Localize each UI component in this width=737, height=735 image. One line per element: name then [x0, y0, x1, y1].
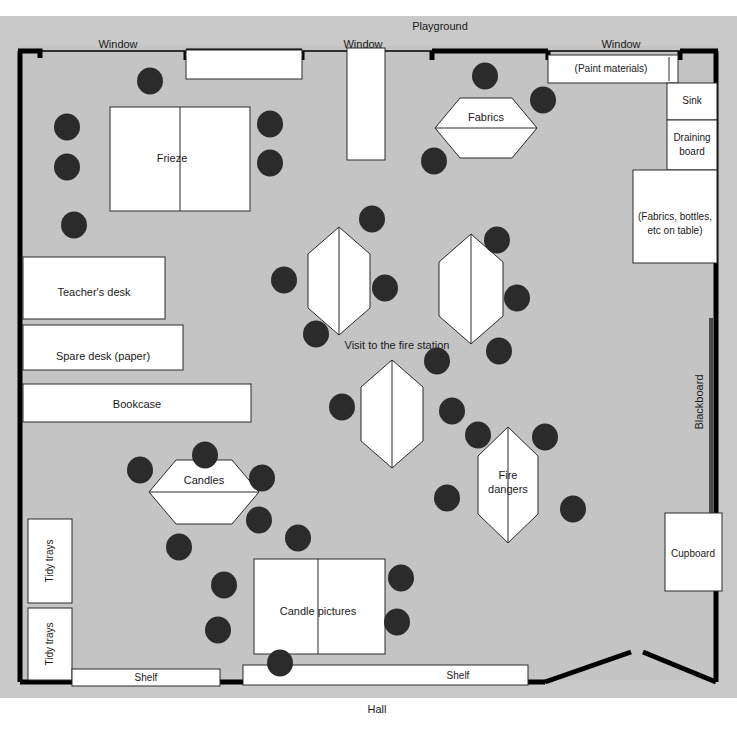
side-table-label-line2: etc on table)	[647, 225, 702, 236]
tidy-trays-lower[interactable]: Tidy trays	[28, 608, 72, 680]
bookcase-label: Bookcase	[113, 398, 161, 410]
chair-seat	[439, 397, 465, 424]
chair-seat	[372, 274, 398, 301]
frieze-table[interactable]: Frieze	[110, 107, 250, 211]
chair-seat	[246, 506, 272, 533]
chair-seat	[486, 337, 512, 364]
classroom-floorplan: Playground Hall Window Window Window	[0, 0, 737, 735]
tidy-trays-upper[interactable]: Tidy trays	[28, 519, 72, 603]
chair-seat	[504, 284, 530, 311]
tidy-trays-lower-label: Tidy trays	[44, 623, 55, 666]
paint-materials-label: (Paint materials)	[575, 63, 648, 74]
chair-seat	[424, 347, 450, 374]
chair-seat	[434, 484, 460, 511]
window-label-right: Window	[601, 38, 640, 50]
paint-materials-unit[interactable]: (Paint materials)	[548, 55, 678, 83]
chair-seat	[267, 649, 293, 676]
window-alcove-mid	[347, 48, 385, 160]
chair-seat	[472, 62, 498, 89]
spare-desk-label: Spare desk (paper)	[56, 350, 150, 362]
sink-label: Sink	[682, 95, 702, 106]
chair-seat	[192, 441, 218, 468]
chair-seat	[484, 226, 510, 253]
chair-seat	[137, 67, 163, 94]
hall-label: Hall	[368, 703, 387, 715]
chair-seat	[465, 421, 491, 448]
draining-board-label-line2: board	[679, 146, 705, 157]
teachers-desk-label: Teacher's desk	[57, 286, 131, 298]
side-table[interactable]: (Fabrics, bottles, etc on table)	[633, 170, 717, 263]
chair-seat	[303, 320, 329, 347]
chair-seat	[54, 113, 80, 140]
blackboard-strip	[709, 318, 713, 538]
chair-seat	[384, 608, 410, 635]
cupboard-label: Cupboard	[671, 548, 715, 559]
side-table-label-line1: (Fabrics, bottles,	[638, 211, 712, 222]
bookcase[interactable]: Bookcase	[23, 384, 251, 422]
shelf-right-label: Shelf	[447, 670, 470, 681]
chair-seat	[166, 533, 192, 560]
chair-seat	[127, 456, 153, 483]
fire-dangers-label-line2: dangers	[488, 483, 528, 495]
cupboard[interactable]: Cupboard	[665, 513, 722, 591]
teachers-desk[interactable]: Teacher's desk	[23, 257, 165, 319]
blackboard-label: Blackboard	[693, 374, 705, 429]
draining-board-label-line1: Draining	[673, 132, 710, 143]
candles-table-label: Candles	[184, 474, 225, 486]
chair-seat	[257, 149, 283, 176]
chair-seat	[249, 464, 275, 491]
chair-seat	[61, 211, 87, 238]
chair-seat	[532, 423, 558, 450]
chair-seat	[329, 393, 355, 420]
chair-seat	[257, 110, 283, 137]
floorplan-svg: Playground Hall Window Window Window	[0, 0, 737, 735]
chair-seat	[530, 86, 556, 113]
fabrics-table-label: Fabrics	[468, 111, 505, 123]
chair-seat	[285, 524, 311, 551]
candle-pictures-label: Candle pictures	[280, 605, 357, 617]
shelf-left[interactable]: Shelf	[72, 669, 220, 686]
chair-seat	[205, 616, 231, 643]
draining-board[interactable]: Draining board	[667, 120, 717, 170]
chair-seat	[211, 571, 237, 598]
frieze-table-label: Frieze	[157, 152, 188, 164]
window-alcove-left	[186, 50, 302, 79]
playground-label: Playground	[412, 20, 468, 32]
sink[interactable]: Sink	[667, 83, 717, 120]
tidy-trays-upper-label: Tidy trays	[44, 540, 55, 583]
chair-seat	[388, 564, 414, 591]
chair-seat	[54, 153, 80, 180]
candle-pictures-table[interactable]: Candle pictures	[254, 559, 385, 654]
chair-seat	[421, 147, 447, 174]
chair-seat	[359, 205, 385, 232]
chair-seat	[560, 495, 586, 522]
shelf-left-label: Shelf	[135, 672, 158, 683]
chair-seat	[271, 266, 297, 293]
window-label-left: Window	[98, 38, 137, 50]
spare-desk[interactable]: Spare desk (paper)	[23, 325, 183, 370]
fire-dangers-label-line1: Fire	[499, 469, 518, 481]
